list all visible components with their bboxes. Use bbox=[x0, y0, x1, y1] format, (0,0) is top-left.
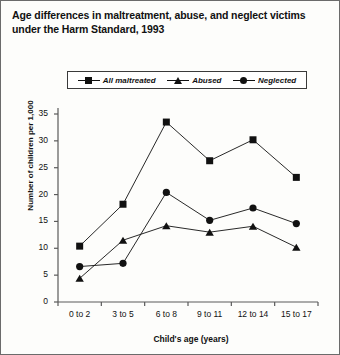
chart-figure: Age differences in maltreatment, abuse, … bbox=[0, 0, 340, 355]
plot-svg bbox=[1, 1, 340, 355]
y-tick-label: 35 bbox=[22, 108, 48, 118]
y-tick-label: 25 bbox=[22, 162, 48, 172]
y-tick-label: 15 bbox=[22, 215, 48, 225]
y-tick-label: 20 bbox=[22, 189, 48, 199]
y-tick-label: 5 bbox=[22, 269, 48, 279]
y-tick-label: 10 bbox=[22, 242, 48, 252]
y-tick-label: 0 bbox=[22, 296, 48, 306]
plot-area: Number of children per 1,000 Child's age… bbox=[1, 1, 340, 355]
x-tick-label: 15 to 17 bbox=[268, 309, 324, 319]
y-tick-label: 30 bbox=[22, 135, 48, 145]
x-axis-label: Child's age (years) bbox=[56, 334, 326, 344]
